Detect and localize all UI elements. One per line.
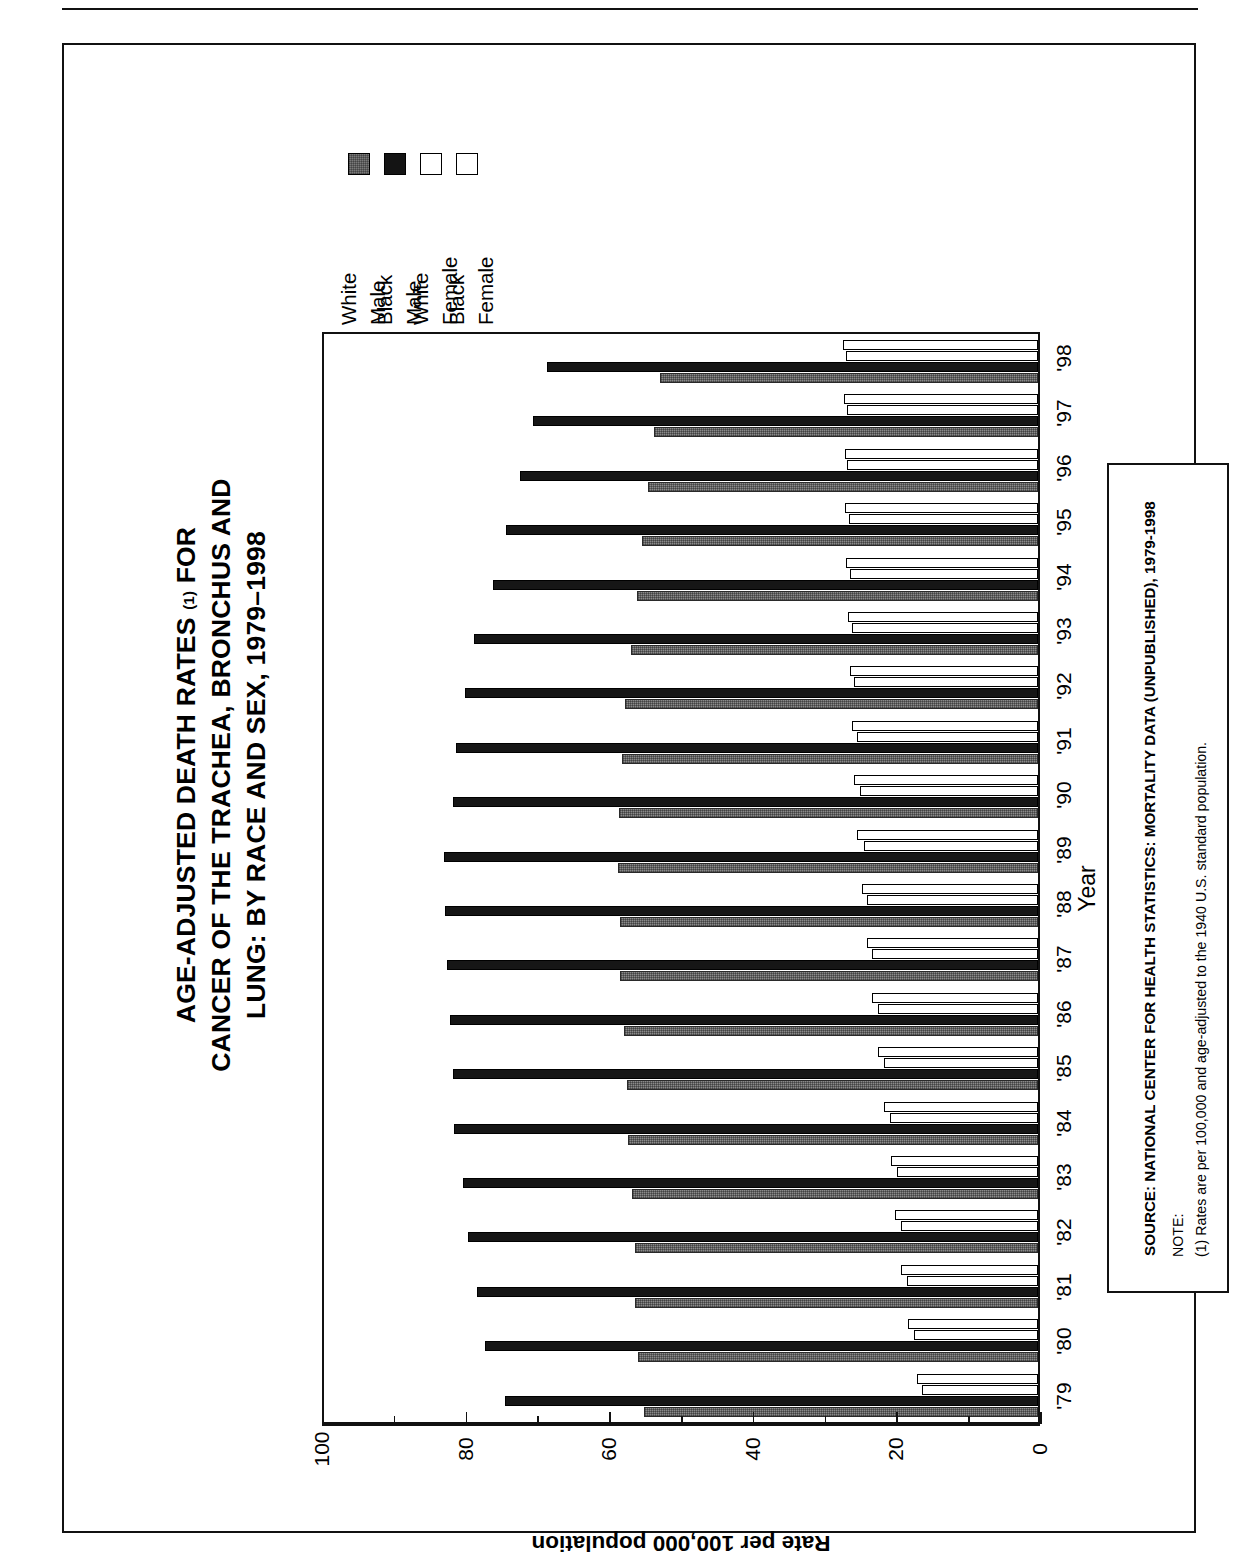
value-tick-60: [609, 1412, 611, 1424]
bar-black-female-92: [854, 677, 1038, 687]
bar-white-male-95: [642, 536, 1038, 546]
bar-group-79: [324, 1368, 1038, 1422]
value-tick-90: [394, 1416, 396, 1424]
bar-white-female-95: [845, 503, 1038, 513]
bar-group-93: [324, 606, 1038, 660]
bar-black-female-84: [890, 1113, 1039, 1123]
white-swatch-icon: [456, 153, 478, 175]
bar-white-female-82: [895, 1210, 1038, 1220]
year-label-96: '96: [1052, 446, 1076, 490]
bar-white-male-87: [620, 971, 1038, 981]
bar-white-female-92: [850, 666, 1038, 676]
bar-group-86: [324, 987, 1038, 1041]
year-label-83: '83: [1052, 1155, 1076, 1199]
black-swatch-icon: [384, 153, 406, 175]
bar-white-male-84: [628, 1135, 1038, 1145]
bar-white-female-89: [857, 830, 1038, 840]
bar-white-female-83: [891, 1156, 1038, 1166]
value-tick-70: [537, 1416, 539, 1424]
bar-white-female-91: [852, 721, 1038, 731]
legend-item-labels: BlackMale: [382, 179, 408, 349]
value-tick-100: [322, 1412, 324, 1424]
bar-black-male-79: [505, 1396, 1038, 1406]
bar-black-female-81: [907, 1276, 1038, 1286]
bar-group-97: [324, 388, 1038, 442]
year-label-98: '98: [1052, 336, 1076, 380]
bar-group-98: [324, 334, 1038, 388]
year-label-92: '92: [1052, 664, 1076, 708]
bar-white-female-98: [843, 340, 1038, 350]
year-label-80: '80: [1052, 1319, 1076, 1363]
bar-white-female-90: [854, 775, 1038, 785]
page-title: AGE-ADJUSTED DEATH RATES (1) FOR CANCER …: [169, 380, 274, 1170]
value-tick-40: [753, 1412, 755, 1424]
bar-white-female-80: [908, 1319, 1038, 1329]
value-tick-30: [825, 1416, 827, 1424]
bar-black-male-84: [454, 1124, 1038, 1134]
year-label-89: '89: [1052, 828, 1076, 872]
bar-group-88: [324, 878, 1038, 932]
note-label: NOTE:: [1170, 1214, 1186, 1257]
source-note-box: SOURCE: NATIONAL CENTER FOR HEALTH STATI…: [1107, 463, 1229, 1293]
bar-black-female-97: [847, 405, 1038, 415]
legend-sex-label: Female: [474, 257, 498, 325]
title-line-1: AGE-ADJUSTED DEATH RATES (1) FOR: [169, 380, 204, 1170]
bar-black-female-89: [864, 841, 1038, 851]
bar-black-male-92: [465, 688, 1038, 698]
bar-white-male-79: [644, 1407, 1038, 1417]
bar-black-male-98: [547, 362, 1038, 372]
value-tick-20: [896, 1412, 898, 1424]
bar-white-male-93: [631, 645, 1038, 655]
legend-item-white-female[interactable]: WhiteFemale: [418, 153, 444, 175]
legend-item-black-female[interactable]: BlackFemale: [454, 153, 480, 175]
bar-black-male-93: [474, 634, 1038, 644]
bar-group-92: [324, 660, 1038, 714]
bar-black-female-96: [847, 460, 1038, 470]
bar-group-82: [324, 1204, 1038, 1258]
bar-white-female-94: [846, 558, 1038, 568]
bar-black-male-90: [453, 797, 1038, 807]
note-text: (1) Rates are per 100,000 and age-adjust…: [1193, 742, 1209, 1257]
bar-group-89: [324, 824, 1038, 878]
bar-black-male-95: [506, 525, 1038, 535]
bar-white-male-86: [624, 1026, 1038, 1036]
bar-black-female-83: [897, 1167, 1038, 1177]
bar-white-female-93: [848, 612, 1038, 622]
bar-group-81: [324, 1259, 1038, 1313]
source-text: SOURCE: NATIONAL CENTER FOR HEALTH STATI…: [1141, 501, 1158, 1256]
legend-race-label: Black: [373, 275, 397, 325]
value-tick-label-0: 0: [1028, 1442, 1052, 1456]
value-axis-title: Rate per 100,000 population: [441, 1530, 921, 1556]
value-tick-label-40: 40: [741, 1435, 765, 1463]
year-label-87: '87: [1052, 937, 1076, 981]
bar-white-female-85: [878, 1047, 1038, 1057]
bar-black-female-93: [852, 623, 1038, 633]
year-label-82: '82: [1052, 1210, 1076, 1254]
bar-white-female-96: [845, 449, 1038, 459]
title-line-1-tail: FOR: [171, 527, 201, 584]
bar-white-male-97: [654, 427, 1038, 437]
bar-black-female-91: [857, 732, 1038, 742]
bar-white-female-84: [884, 1102, 1038, 1112]
bar-white-male-83: [632, 1189, 1038, 1199]
bar-black-female-80: [914, 1330, 1038, 1340]
year-label-97: '97: [1052, 391, 1076, 435]
bar-black-male-80: [485, 1341, 1038, 1351]
bar-black-male-97: [533, 416, 1039, 426]
legend-item-black-male[interactable]: BlackMale: [382, 153, 408, 175]
bar-white-male-90: [619, 808, 1038, 818]
bar-white-male-80: [638, 1352, 1038, 1362]
bar-white-female-97: [844, 394, 1038, 404]
gray-hatch-swatch-icon: [348, 153, 370, 175]
category-axis-title: Year: [1074, 865, 1101, 911]
bar-black-female-79: [922, 1385, 1038, 1395]
bar-black-male-87: [447, 960, 1038, 970]
bar-white-male-85: [627, 1080, 1038, 1090]
figure-frame: AGE-ADJUSTED DEATH RATES (1) FOR CANCER …: [62, 43, 1196, 1533]
bar-white-male-89: [618, 863, 1038, 873]
legend-item-labels: BlackFemale: [454, 179, 480, 349]
year-label-95: '95: [1052, 500, 1076, 544]
bar-group-96: [324, 443, 1038, 497]
legend-item-white-male[interactable]: WhiteMale: [346, 153, 372, 175]
title-line-3: LUNG: BY RACE AND SEX, 1979–1998: [239, 380, 274, 1170]
